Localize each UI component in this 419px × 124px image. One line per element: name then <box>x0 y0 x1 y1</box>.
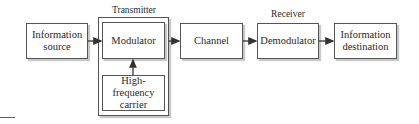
connection-arrows <box>0 0 419 124</box>
